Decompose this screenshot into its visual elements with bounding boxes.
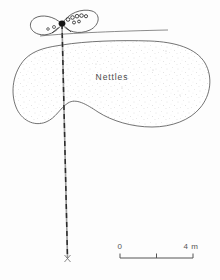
loop-chain-circles-left [47,26,56,31]
nettles-patch [13,41,210,127]
loop-node [59,21,66,27]
loop-left-lobe [30,16,62,35]
field-survey-drawing: Nettles [0,0,220,280]
scale-end-label: 4 m [184,242,199,251]
loop-feature [30,10,98,35]
baseline [40,30,168,36]
scale-bar: 0 4 m [118,242,199,258]
figure-canvas: Nettles [0,0,220,280]
scale-start-label: 0 [118,242,123,251]
nettles-patch-shape [13,41,210,127]
nettles-label: Nettles [96,72,129,82]
